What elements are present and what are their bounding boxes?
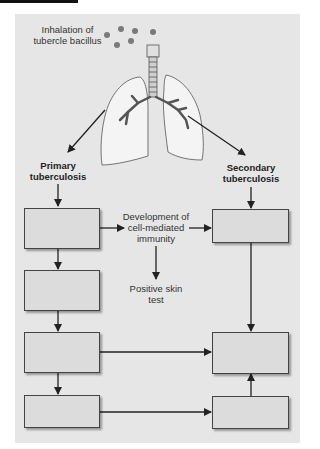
secondary-tb-label: Secondary tuberculosis <box>212 162 290 184</box>
secondary-box-1 <box>212 209 289 243</box>
cell-mediated-immunity-label: Development of cell-mediated immunity <box>116 211 196 244</box>
primary-tb-label: Primary tuberculosis <box>20 160 96 182</box>
positive-skin-test-label: Positive skin test <box>116 283 196 305</box>
primary-box-4 <box>24 395 100 428</box>
secondary-box-3 <box>212 396 289 429</box>
primary-box-3 <box>24 332 100 373</box>
primary-box-1 <box>24 208 100 249</box>
primary-box-2 <box>24 270 100 311</box>
secondary-box-2 <box>212 332 289 374</box>
trachea-icon <box>147 45 159 97</box>
